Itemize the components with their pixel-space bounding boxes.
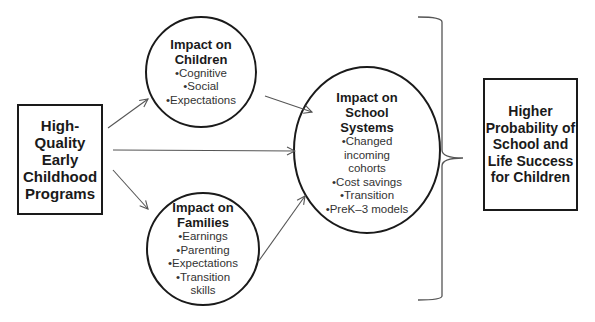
node-title: Impact on [170,37,231,52]
source-line: Early [23,151,97,168]
node-item: •Changed [342,135,393,149]
node-item: skills [191,284,216,298]
outcome-line: Higher [486,103,575,120]
node-item: incoming [344,149,390,163]
node-title: Systems [340,120,393,135]
children-node: Impact on Children •Cognitive •Social •E… [146,20,256,124]
outcome-line: School and [486,136,575,153]
node-item: •Expectations [168,257,238,271]
source-line: Programs [23,185,97,202]
node-item: cohorts [348,162,386,176]
outcome-line: for Children [486,169,575,186]
node-item: •Transition [176,271,230,285]
node-title: Impact on [172,200,233,215]
node-item: •Cognitive [175,67,227,81]
source-line: Quality [23,134,97,151]
node-item: •Parenting [176,244,229,258]
node-title: Children [175,52,228,67]
node-item: •Expectations [166,94,236,108]
node-item: •Social [183,80,218,94]
arrow-source-to-school [113,150,295,151]
outcome-box: Higher Probability of School and Life Su… [483,78,578,211]
source-line: High- [23,117,97,134]
arrow-source-to-families [113,170,148,209]
outcome-line: Life Success [486,153,575,170]
node-item: •Transition [340,189,394,203]
node-item: •PreK–3 models [326,203,409,217]
source-box: High- Quality Early Childhood Programs [17,104,103,215]
node-title: School [345,105,388,120]
arrow-source-to-children [108,99,148,128]
node-item: •Earnings [178,230,227,244]
node-title: Families [177,215,229,230]
school-node: Impact on School Systems •Changed incomi… [300,78,434,228]
node-item: •Cost savings [332,176,402,190]
source-line: Childhood [23,168,97,185]
node-title: Impact on [336,90,397,105]
families-node: Impact on Families •Earnings •Parenting … [148,196,258,302]
outcome-line: Probability of [486,120,575,137]
arrow-families-to-school [258,196,305,262]
